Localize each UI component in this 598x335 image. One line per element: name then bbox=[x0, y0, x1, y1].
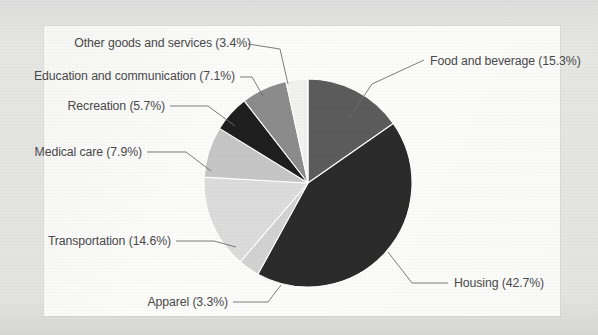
slice-label-medical-care: Medical care (7.9%) bbox=[20, 145, 142, 159]
leader-line-apparel bbox=[233, 285, 281, 302]
leader-line-other-goods-and-services bbox=[248, 44, 288, 84]
slice-label-transportation: Transportation (14.6%) bbox=[20, 234, 171, 248]
slice-label-recreation: Recreation (5.7%) bbox=[20, 99, 165, 113]
pie-slices bbox=[204, 79, 412, 287]
slice-label-food-and-beverage: Food and beverage (15.3%) bbox=[430, 54, 581, 68]
slice-label-housing: Housing (42.7%) bbox=[454, 276, 544, 290]
leader-line-housing bbox=[388, 252, 448, 283]
slice-label-other-goods-and-services: Other goods and services (3.4%) bbox=[46, 36, 251, 50]
slice-label-apparel: Apparel (3.3%) bbox=[96, 295, 228, 309]
slice-label-education-and-communication: Education and communication (7.1%) bbox=[20, 69, 235, 83]
leader-line-medical-care bbox=[147, 152, 211, 171]
pie-chart-page: Other goods and services (3.4%) Educatio… bbox=[0, 0, 598, 335]
